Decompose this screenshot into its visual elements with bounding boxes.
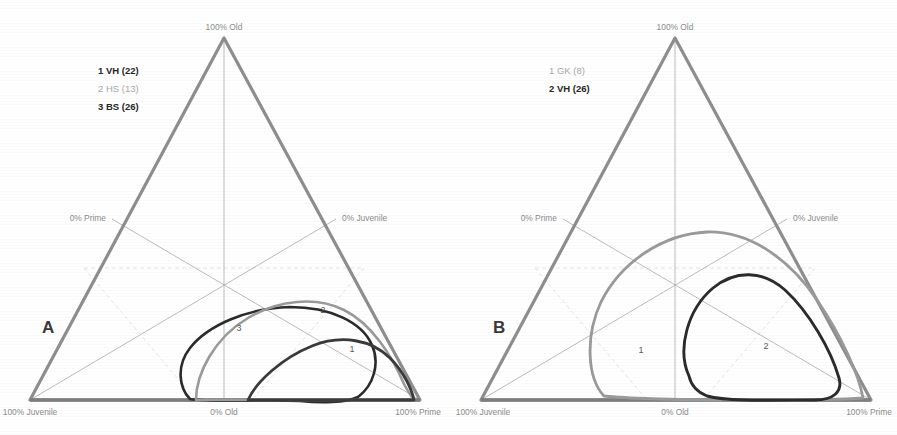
panel-a-legend-item-0: 1 VH (22) (98, 65, 139, 76)
panel-b-axis-left-mid: 0% Prime (520, 213, 557, 223)
panel-b-legend-item-1: 2 VH (26) (549, 83, 590, 94)
panel-b-axis-bottom-center: 0% Old (661, 407, 689, 417)
panel-b-contour-gk (590, 232, 863, 400)
panel-b-contour-vh (683, 275, 839, 401)
panel-a-axis-left-mid: 0% Prime (70, 213, 107, 223)
panel-a-axis-right-mid: 0% Juvenile (342, 213, 388, 223)
panel-a: 1 2 3 100% Old 0% Prime 0% Juvenile 100%… (0, 0, 449, 435)
panel-a-contour-label-2: 2 (320, 305, 325, 315)
panel-a-legend-item-1: 2 HS (13) (98, 83, 139, 94)
panel-b-legend-item-0: 1 GK (8) (549, 65, 585, 76)
panel-b-contour-label-1: 1 (638, 345, 643, 355)
panel-b-canvas: 1 2 100% Old 0% Prime 0% Juvenile 100% J… (449, 0, 897, 435)
panel-b-axis-right-mid: 0% Juvenile (793, 213, 839, 223)
panel-a-letter: A (42, 318, 54, 337)
ternary-plot-figure: 1 2 3 100% Old 0% Prime 0% Juvenile 100%… (0, 0, 897, 435)
panel-a-axis-bottom-right: 100% Prime (395, 407, 441, 417)
panel-a-canvas: 1 2 3 100% Old 0% Prime 0% Juvenile 100%… (0, 0, 448, 435)
panel-a-contour-vh (248, 340, 414, 400)
panel-b-axis-bottom-right: 100% Prime (846, 407, 892, 417)
panel-a-axis-bottom-center: 0% Old (210, 407, 238, 417)
panel-a-legend-item-2: 3 BS (26) (98, 101, 139, 112)
panel-a-axis-bottom-left: 100% Juvenile (3, 407, 58, 417)
panel-a-contour-label-3: 3 (236, 323, 241, 333)
panel-b-contour-label-2: 2 (763, 341, 768, 351)
panel-a-contour-label-1: 1 (349, 344, 354, 354)
panel-b-axis-bottom-left: 100% Juvenile (455, 407, 510, 417)
panel-b-axis-top-apex: 100% Old (656, 22, 693, 32)
panel-b: 1 2 100% Old 0% Prime 0% Juvenile 100% J… (449, 0, 897, 435)
panel-a-axis-top-apex: 100% Old (206, 22, 243, 32)
panel-b-letter: B (493, 318, 505, 337)
